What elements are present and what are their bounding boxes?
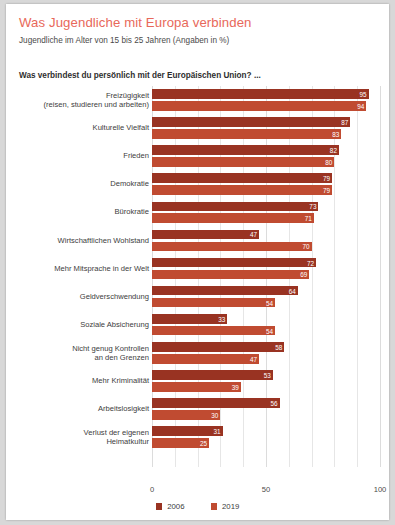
bar-value-label: 54 xyxy=(266,327,273,334)
category-label: Mehr Mitsprache in der Welt xyxy=(9,264,149,273)
bar-value-label: 82 xyxy=(330,147,337,154)
chart-plot-area: Freizügigkeit(reisen, studieren und arbe… xyxy=(6,86,389,484)
bar-value-label: 64 xyxy=(289,287,296,294)
category-label: Demokratie xyxy=(9,180,149,189)
legend-item[interactable]: 2006 xyxy=(156,502,185,511)
category-label: Geldverschwendung xyxy=(9,292,149,301)
bar-2019[interactable]: 39 xyxy=(152,382,241,392)
category-label-line: Kulturelle Vielfalt xyxy=(9,124,149,133)
bar-value-label: 54 xyxy=(266,299,273,306)
bar-group: Mehr Kriminalität5339 xyxy=(6,367,389,395)
bar-group: Nicht genug Kontrollenan den Grenzen5847 xyxy=(6,339,389,367)
bar-value-label: 56 xyxy=(271,400,278,407)
bar-group: Frieden8280 xyxy=(6,142,389,170)
bar-2006[interactable]: 79 xyxy=(152,173,332,183)
bar-2006[interactable]: 56 xyxy=(152,398,280,408)
category-label-line: Soziale Absicherung xyxy=(9,320,149,329)
bar-value-label: 33 xyxy=(218,315,225,322)
bar-group: Wirtschaftlichen Wohlstand4770 xyxy=(6,226,389,254)
bar-2019[interactable]: 30 xyxy=(152,410,220,420)
bar-2019[interactable]: 79 xyxy=(152,185,332,195)
legend-item[interactable]: 2019 xyxy=(211,502,240,511)
bar-value-label: 25 xyxy=(200,440,207,447)
category-label-line: Heimatkultur xyxy=(9,437,149,446)
bar-2019[interactable]: 80 xyxy=(152,157,334,167)
bar-2006[interactable]: 73 xyxy=(152,202,318,212)
category-label-line: Verlust der eigenen xyxy=(9,428,149,437)
bar-value-label: 70 xyxy=(302,243,309,250)
legend-label: 2006 xyxy=(167,502,184,511)
bar-2019[interactable]: 70 xyxy=(152,242,312,252)
bar-2019[interactable]: 47 xyxy=(152,354,259,364)
bar-value-label: 30 xyxy=(211,411,218,418)
category-label-line: Wirtschaftlichen Wohlstand xyxy=(9,236,149,245)
chart-header: Was Jugendliche mit Europa verbinden Jug… xyxy=(6,4,389,47)
category-label-line: Mehr Kriminalität xyxy=(9,376,149,385)
category-label: Frieden xyxy=(9,152,149,161)
category-label-line: Nicht genug Kontrollen xyxy=(9,344,149,353)
page-title: Was Jugendliche mit Europa verbinden xyxy=(19,15,389,31)
bar-group: Demokratie7979 xyxy=(6,170,389,198)
bar-2019[interactable]: 94 xyxy=(152,101,366,111)
category-label: Freizügigkeit(reisen, studieren und arbe… xyxy=(9,91,149,109)
bar-group: Bürokratie7371 xyxy=(6,198,389,226)
category-label: Bürokratie xyxy=(9,208,149,217)
bar-value-label: 94 xyxy=(357,102,364,109)
bar-value-label: 80 xyxy=(325,159,332,166)
bar-value-label: 72 xyxy=(307,259,314,266)
bar-2019[interactable]: 83 xyxy=(152,129,341,139)
bar-value-label: 31 xyxy=(214,428,221,435)
category-label: Nicht genug Kontrollenan den Grenzen xyxy=(9,344,149,362)
chart-card: Was Jugendliche mit Europa verbinden Jug… xyxy=(6,4,389,520)
bar-value-label: 39 xyxy=(232,383,239,390)
bar-group: Arbeitslosigkeit5630 xyxy=(6,395,389,423)
bar-2019[interactable]: 69 xyxy=(152,270,309,280)
bar-2006[interactable]: 64 xyxy=(152,286,298,296)
bar-2006[interactable]: 47 xyxy=(152,230,259,240)
category-label-line: (reisen, studieren und arbeiten) xyxy=(9,100,149,109)
x-axis-tick: 0 xyxy=(150,485,154,494)
category-label-line: Frieden xyxy=(9,152,149,161)
category-label: Verlust der eigenenHeimatkultur xyxy=(9,428,149,446)
bar-value-label: 47 xyxy=(250,355,257,362)
chart-bar-groups: Freizügigkeit(reisen, studieren und arbe… xyxy=(6,86,389,451)
bar-value-label: 95 xyxy=(359,90,366,97)
category-label: Kulturelle Vielfalt xyxy=(9,124,149,133)
bar-2006[interactable]: 58 xyxy=(152,342,284,352)
bar-2006[interactable]: 33 xyxy=(152,314,227,324)
bar-group: Freizügigkeit(reisen, studieren und arbe… xyxy=(6,86,389,114)
bar-value-label: 71 xyxy=(305,215,312,222)
category-label-line: Arbeitslosigkeit xyxy=(9,404,149,413)
category-label: Mehr Kriminalität xyxy=(9,376,149,385)
bar-group: Kulturelle Vielfalt8783 xyxy=(6,114,389,142)
bar-2006[interactable]: 95 xyxy=(152,89,369,99)
bar-value-label: 69 xyxy=(300,271,307,278)
chart-question-annotation: Was verbindest du persönlich mit der Eur… xyxy=(19,71,389,80)
bar-2006[interactable]: 82 xyxy=(152,145,339,155)
category-label: Soziale Absicherung xyxy=(9,320,149,329)
bar-value-label: 83 xyxy=(332,130,339,137)
category-label-line: Bürokratie xyxy=(9,208,149,217)
category-label-line: Demokratie xyxy=(9,180,149,189)
bar-group: Mehr Mitsprache in der Welt7269 xyxy=(6,255,389,283)
category-label: Arbeitslosigkeit xyxy=(9,404,149,413)
chart-x-axis: 050100 xyxy=(152,482,380,498)
chart-legend: 20062019 xyxy=(6,502,389,511)
bar-value-label: 58 xyxy=(275,343,282,350)
bar-group: Soziale Absicherung3354 xyxy=(6,311,389,339)
bar-2019[interactable]: 54 xyxy=(152,298,275,308)
bar-value-label: 79 xyxy=(323,175,330,182)
bar-value-label: 53 xyxy=(264,371,271,378)
bar-2006[interactable]: 53 xyxy=(152,370,273,380)
legend-label: 2019 xyxy=(222,502,239,511)
bar-2006[interactable]: 72 xyxy=(152,258,316,268)
legend-swatch-icon xyxy=(156,503,163,510)
x-axis-tick: 100 xyxy=(374,485,387,494)
bar-2019[interactable]: 54 xyxy=(152,326,275,336)
bar-group: Verlust der eigenenHeimatkultur3125 xyxy=(6,423,389,451)
bar-2006[interactable]: 31 xyxy=(152,426,223,436)
bar-2006[interactable]: 87 xyxy=(152,117,350,127)
bar-2019[interactable]: 71 xyxy=(152,213,314,223)
bar-2019[interactable]: 25 xyxy=(152,438,209,448)
category-label-line: Freizügigkeit xyxy=(9,91,149,100)
